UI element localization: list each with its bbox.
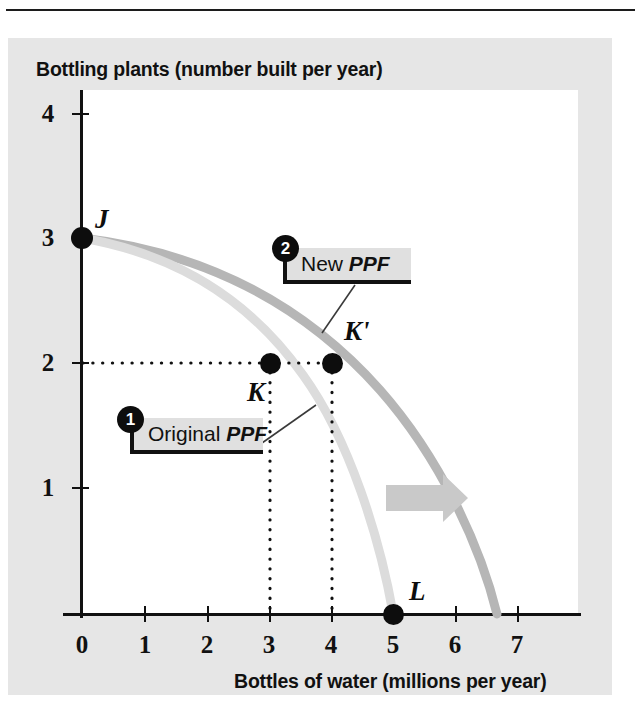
plot-area [82, 90, 578, 614]
callout-new-ppf-prefix: New [301, 252, 349, 275]
x-tick-label-6: 6 [443, 632, 467, 657]
point-label-k: K [247, 379, 265, 406]
x-tick-label-3: 3 [257, 632, 281, 657]
data-point-j[interactable] [71, 227, 93, 249]
callout-badge-1[interactable]: 1 [117, 406, 144, 433]
x-tick-7 [517, 606, 519, 622]
page-top-rule [6, 9, 635, 11]
x-axis-line [63, 613, 581, 616]
callout-original-ppf-prefix: Original [148, 422, 226, 445]
y-tick-2 [72, 362, 89, 364]
callout-original-ppf-text: Original PPF [148, 422, 267, 446]
x-tick-6 [455, 606, 457, 622]
y-tick-label-4: 4 [36, 101, 60, 126]
callout-original-ppf[interactable]: Original PPF [130, 418, 263, 454]
callout-new-ppf-text: New PPF [301, 252, 390, 276]
point-label-l: L [409, 578, 426, 605]
x-tick-3 [269, 606, 271, 622]
callout-original-ppf-emphasis: PPF [226, 422, 267, 445]
x-tick-label-4: 4 [319, 632, 343, 657]
x-tick-label-2: 2 [195, 632, 219, 657]
x-tick-label-0: 0 [70, 632, 94, 657]
y-axis-title: Bottling plants (number built per year) [36, 58, 382, 81]
x-tick-label-1: 1 [133, 632, 157, 657]
point-label-j: J [95, 206, 109, 233]
y-tick-4 [72, 113, 89, 115]
point-label-k-prime: K' [344, 318, 370, 345]
x-axis-title: Bottles of water (millions per year) [234, 670, 546, 693]
y-tick-label-2: 2 [36, 350, 60, 375]
data-point-l[interactable] [383, 604, 404, 625]
x-tick-4 [331, 606, 333, 622]
callout-new-ppf[interactable]: New PPF [283, 248, 411, 284]
callout-badge-2[interactable]: 2 [272, 235, 299, 262]
ppf-figure: Bottling plants (number built per year) … [0, 0, 635, 702]
x-tick-2 [207, 606, 209, 622]
data-point-k-prime[interactable] [322, 353, 343, 374]
callout-new-ppf-emphasis: PPF [349, 252, 390, 275]
x-tick-label-5: 5 [381, 632, 405, 657]
y-tick-label-1: 1 [36, 475, 60, 500]
y-tick-1 [72, 487, 89, 489]
x-tick-label-7: 7 [505, 632, 529, 657]
y-tick-label-3: 3 [36, 225, 60, 250]
y-axis-line [80, 90, 83, 618]
x-tick-1 [144, 606, 146, 622]
data-point-k[interactable] [260, 353, 281, 374]
